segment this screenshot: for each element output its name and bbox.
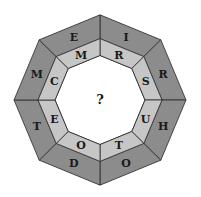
outer-letter: T bbox=[33, 120, 42, 133]
outer-letter: D bbox=[69, 157, 79, 170]
inner-letter: E bbox=[50, 113, 58, 126]
outer-letter: I bbox=[124, 31, 129, 44]
inner-letter: R bbox=[114, 49, 124, 62]
outer-letter: O bbox=[121, 157, 131, 170]
outer-letter: M bbox=[31, 68, 43, 81]
outer-letter: R bbox=[159, 68, 169, 81]
outer-letter: E bbox=[70, 31, 78, 44]
inner-letter: U bbox=[141, 113, 151, 126]
inner-letter: T bbox=[115, 139, 124, 152]
octagon-puzzle: IRHODTMERSUTOECM ? bbox=[0, 0, 201, 197]
inner-letter: O bbox=[76, 139, 86, 152]
inner-letter: C bbox=[50, 75, 59, 88]
center-question-mark: ? bbox=[96, 92, 104, 107]
inner-letter: S bbox=[142, 75, 150, 88]
inner-letter: M bbox=[75, 49, 87, 62]
outer-letter: H bbox=[158, 120, 168, 133]
